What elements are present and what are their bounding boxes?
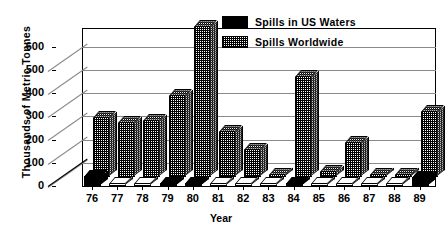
y-axis-tick-group: 6005004003002001000 <box>8 0 44 230</box>
y-axis-tick-label: 500 <box>10 64 44 75</box>
y-axis-tick-label: 0 <box>10 180 44 191</box>
gridline <box>82 93 436 94</box>
bar-side-face <box>311 71 319 176</box>
legend-label-worldwide: Spills Worldwide <box>255 36 344 48</box>
y-axis-tick-label: 200 <box>10 134 44 145</box>
bar-worldwide <box>219 131 236 177</box>
bar-worldwide <box>345 142 362 177</box>
y-axis-tick-label: 300 <box>10 110 44 121</box>
x-axis-title: Year <box>0 212 442 224</box>
chart-legend: Spills in US Waters Spills Worldwide <box>222 12 356 52</box>
bar-side-face <box>361 137 369 176</box>
x-axis-tick-mark <box>268 186 269 190</box>
x-axis-tick-mark <box>142 186 143 190</box>
bar-worldwide <box>143 120 160 177</box>
bar-worldwide <box>244 149 261 177</box>
bar-side-face <box>109 112 117 176</box>
x-axis-tick-mark <box>344 186 345 190</box>
x-axis-tick-mark <box>117 186 118 190</box>
bar-worldwide <box>93 117 110 177</box>
bar-side-face <box>185 89 193 176</box>
x-axis-tick-mark <box>168 186 169 190</box>
x-axis-tick-mark <box>294 186 295 190</box>
x-axis-tick-label: 89 <box>405 192 435 204</box>
legend-item-worldwide: Spills Worldwide <box>222 32 356 52</box>
x-axis-tick-mark <box>420 186 421 190</box>
y-axis-tick-mark <box>52 186 56 187</box>
legend-swatch-us-waters-icon <box>222 16 248 28</box>
bar-side-face <box>159 115 167 176</box>
bar-worldwide <box>194 26 211 177</box>
x-axis-tick-mark <box>243 186 244 190</box>
chart-left-wall <box>48 28 83 186</box>
gridline <box>82 70 436 71</box>
bar-side-face <box>134 117 142 176</box>
bar-us-waters <box>84 176 101 186</box>
x-axis-tick-mark <box>218 186 219 190</box>
y-axis-tick-label: 100 <box>10 157 44 168</box>
y-axis-tick-label: 600 <box>10 41 44 52</box>
bar-side-face <box>437 106 445 176</box>
bar-worldwide <box>421 111 438 177</box>
x-axis-tick-mark <box>394 186 395 190</box>
bar-side-face <box>210 21 218 176</box>
bar-worldwide <box>118 122 135 177</box>
y-axis-tick-label: 400 <box>10 87 44 98</box>
x-axis-tick-mark <box>193 186 194 190</box>
chart-floor-front-edge <box>82 186 436 187</box>
legend-swatch-worldwide-icon <box>222 36 248 48</box>
x-axis-tick-mark <box>92 186 93 190</box>
legend-item-us-waters: Spills in US Waters <box>222 12 356 32</box>
bar-side-face <box>235 125 243 176</box>
bar-us-waters <box>412 177 429 186</box>
bar-worldwide <box>169 95 186 177</box>
legend-label-us-waters: Spills in US Waters <box>255 16 356 28</box>
x-axis-tick-mark <box>319 186 320 190</box>
bar-worldwide <box>295 76 312 177</box>
x-axis-tick-mark <box>369 186 370 190</box>
